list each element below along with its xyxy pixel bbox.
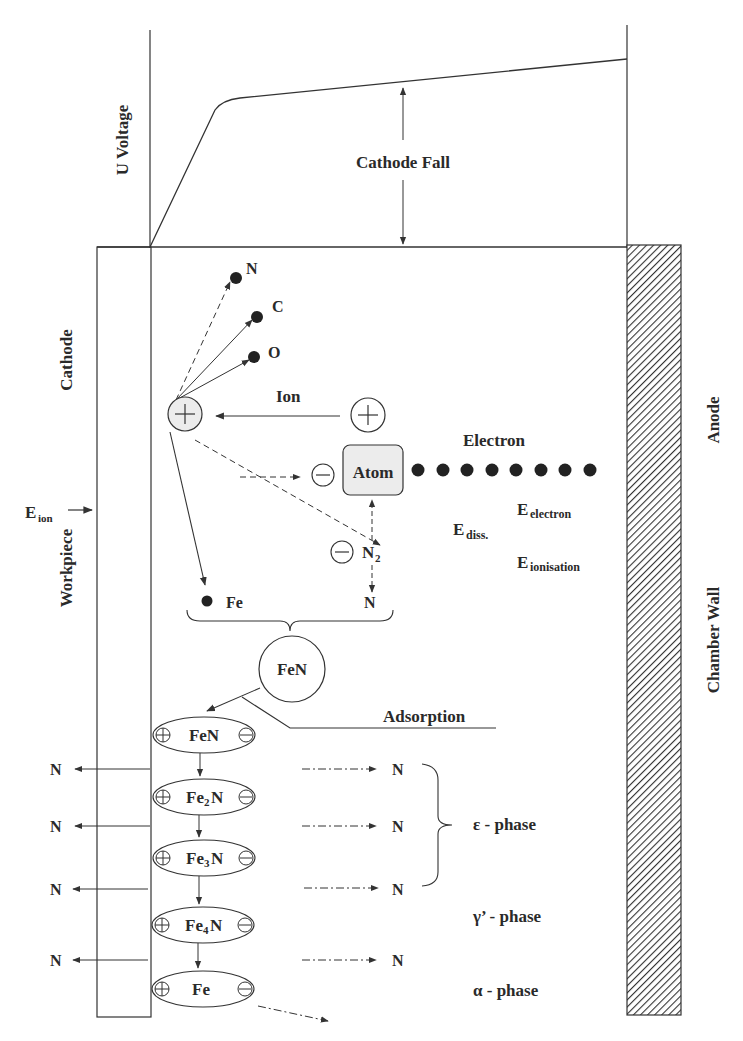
epsilon-brace	[422, 764, 452, 886]
svg-text:N: N	[392, 761, 404, 778]
svg-text:ionisation: ionisation	[530, 560, 580, 574]
fe-particle	[202, 596, 213, 607]
anode-label: Anode	[704, 396, 723, 444]
svg-text:E: E	[517, 500, 528, 519]
svg-text:N: N	[392, 881, 404, 898]
cathode-label: Cathode	[57, 329, 76, 391]
cathode-workpiece-block	[97, 247, 151, 1017]
e-ionisation-label: Eionisation	[517, 553, 580, 574]
ion-at-cathode	[168, 397, 202, 431]
svg-text:C: C	[272, 298, 284, 315]
e-ion-label: E ion	[25, 503, 92, 524]
svg-text:FeN: FeN	[189, 726, 220, 745]
incoming-ion	[351, 398, 385, 432]
epsilon-phase-label: ε - phase	[473, 815, 536, 834]
outward-diffusion: N N N N	[302, 761, 404, 969]
svg-text:E: E	[453, 520, 464, 539]
svg-text:electron: electron	[530, 507, 571, 521]
svg-text:4: 4	[203, 924, 209, 936]
atom-label: Atom	[353, 463, 394, 482]
chamber-wall-label: Chamber Wall	[704, 586, 723, 693]
svg-text:N: N	[50, 881, 62, 898]
svg-text:N: N	[211, 788, 224, 807]
n2-label: N	[362, 543, 375, 562]
c-particle	[251, 311, 263, 323]
svg-text:N: N	[50, 818, 62, 835]
alpha-phase-label: α - phase	[473, 981, 539, 1000]
svg-text:ion: ion	[38, 512, 53, 524]
electron-label: Electron	[463, 431, 526, 450]
svg-text:Fe: Fe	[185, 916, 203, 935]
o-particle	[248, 351, 260, 363]
cathode-fall-label: Cathode Fall	[356, 153, 450, 172]
svg-text:E: E	[25, 503, 36, 522]
adsorption-label: Adsorption	[383, 707, 466, 726]
anode-chamber-wall	[627, 245, 681, 1015]
compound-fe2n: Fe 2 N	[153, 779, 255, 815]
n-particle	[230, 272, 242, 284]
voltage-axis-label: U Voltage	[113, 104, 132, 175]
svg-text:N: N	[50, 761, 62, 778]
voltage-plot: Cathode Fall U Voltage	[113, 25, 627, 248]
electron-stream	[412, 464, 597, 477]
svg-text:N: N	[392, 818, 404, 835]
svg-text:N: N	[364, 594, 376, 611]
compound-fe3n: Fe 3 N	[153, 840, 255, 876]
compound-fen: FeN	[153, 717, 255, 753]
inward-diffusion: N N N N	[50, 761, 150, 969]
svg-text:diss.: diss.	[466, 528, 488, 542]
e-diss-label: Ediss.	[453, 520, 488, 542]
electron-near-n2	[331, 541, 353, 563]
svg-text:3: 3	[204, 857, 210, 869]
svg-text:Fe: Fe	[186, 788, 204, 807]
svg-text:FeN: FeN	[277, 660, 308, 679]
e-electron-label: Eelectron	[517, 500, 571, 521]
glow-discharge-nitriding-diagram: Cathode Fall U Voltage Cathode Workpiece…	[0, 0, 743, 1041]
svg-text:Fe: Fe	[186, 849, 204, 868]
workpiece-label: Workpiece	[57, 528, 76, 607]
svg-text:Fe: Fe	[192, 980, 210, 999]
compound-fe: Fe	[152, 971, 254, 1007]
svg-text:N: N	[392, 952, 404, 969]
combine-brace	[187, 610, 393, 631]
sputtering: N C O	[176, 260, 284, 400]
ion-label: Ion	[276, 387, 301, 406]
gamma-phase-label: γ’ - phase	[472, 907, 542, 926]
svg-text:N: N	[211, 849, 224, 868]
svg-text:O: O	[268, 344, 280, 361]
compound-stack: FeN Fe 2 N Fe 3 N Fe 4 N	[152, 717, 328, 1021]
svg-text:2: 2	[375, 552, 381, 564]
svg-text:Fe: Fe	[226, 594, 243, 611]
svg-text:N: N	[246, 260, 258, 277]
electron-near-atom	[312, 464, 334, 486]
compound-fe4n: Fe 4 N	[152, 907, 254, 943]
svg-text:N: N	[210, 916, 223, 935]
svg-text:N: N	[50, 952, 62, 969]
svg-text:E: E	[517, 553, 528, 572]
svg-text:2: 2	[204, 796, 210, 808]
